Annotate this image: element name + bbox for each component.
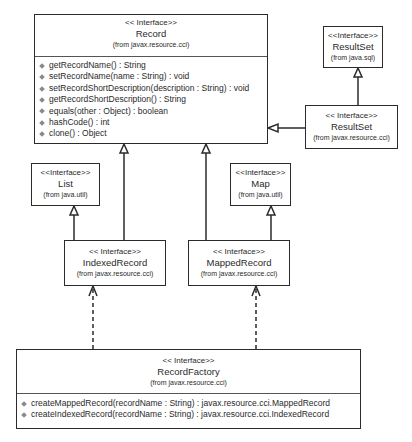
class-list: <<Interface>> List (from java.util) bbox=[31, 163, 100, 206]
class-name: Record bbox=[35, 28, 267, 40]
class-record: << Interface>> Record (from javax.resour… bbox=[34, 14, 268, 144]
stereotype: <<Interface>> bbox=[231, 168, 290, 178]
operation-item: createIndexedRecord(recordName : String)… bbox=[21, 409, 360, 420]
operation-item: hashCode() : int bbox=[39, 117, 267, 128]
stereotype: << Interface>> bbox=[35, 18, 267, 28]
public-operation-icon bbox=[39, 86, 45, 92]
operations-list: createMappedRecord(recordName : String) … bbox=[17, 393, 360, 421]
class-name: Map bbox=[231, 178, 290, 190]
operation-item: getRecordName() : String bbox=[39, 60, 267, 71]
operations-list: getRecordName() : String setRecordName(n… bbox=[35, 56, 267, 140]
public-operation-icon bbox=[39, 63, 45, 69]
generalization-arrowhead-icon bbox=[268, 124, 278, 132]
package-label: (from java.util) bbox=[231, 190, 290, 199]
package-label: (from javax.resource.cci) bbox=[189, 269, 289, 278]
package-label: (from javax.resource.cci) bbox=[306, 133, 397, 142]
class-name: IndexedRecord bbox=[65, 257, 165, 269]
package-label: (from javax.resource.cci) bbox=[35, 40, 267, 49]
generalization-arrowhead-icon bbox=[202, 144, 210, 153]
generalization-arrowhead-icon bbox=[70, 206, 78, 215]
operation-item: getRecordShortDescription() : String bbox=[39, 94, 267, 105]
operation-item: createMappedRecord(recordName : String) … bbox=[21, 398, 360, 409]
package-label: (from java.util) bbox=[32, 190, 99, 199]
class-mappedrecord: << Interface>> MappedRecord (from javax.… bbox=[188, 240, 290, 286]
public-operation-icon bbox=[39, 74, 45, 80]
operation-item: setRecordName(name : String) : void bbox=[39, 71, 267, 82]
class-name: ResultSet bbox=[306, 121, 397, 133]
operation-item: equals(other : Object) : boolean bbox=[39, 106, 267, 117]
stereotype: <<Interface>> bbox=[32, 168, 99, 178]
class-name: ResultSet bbox=[324, 41, 382, 53]
class-name: RecordFactory bbox=[17, 366, 360, 378]
generalization-arrowhead-icon bbox=[120, 144, 128, 153]
package-label: (from javax.resource.cci) bbox=[65, 269, 165, 278]
public-operation-icon bbox=[39, 120, 45, 126]
stereotype: << Interface>> bbox=[17, 356, 360, 366]
operation-item: setRecordShortDescription(description : … bbox=[39, 83, 267, 94]
class-indexedrecord: << Interface>> IndexedRecord (from javax… bbox=[64, 240, 166, 286]
generalization-arrowhead-icon bbox=[267, 206, 275, 215]
stereotype: << Interface>> bbox=[306, 111, 397, 121]
stereotype: << Interface>> bbox=[65, 247, 165, 257]
public-operation-icon bbox=[21, 401, 27, 407]
class-name: List bbox=[32, 178, 99, 190]
public-operation-icon bbox=[39, 131, 45, 137]
operation-item: clone() : Object bbox=[39, 128, 267, 139]
generalization-arrowhead-icon bbox=[354, 68, 362, 77]
class-recordfactory: << Interface>> RecordFactory (from javax… bbox=[16, 349, 361, 429]
stereotype: << Interface>> bbox=[189, 247, 289, 257]
public-operation-icon bbox=[39, 108, 45, 114]
public-operation-icon bbox=[39, 97, 45, 103]
class-map: <<Interface>> Map (from java.util) bbox=[230, 163, 291, 206]
class-resultset-sql: <<Interface>> ResultSet (from java.sql) bbox=[323, 26, 383, 68]
stereotype: <<Interface>> bbox=[324, 31, 382, 41]
package-label: (from javax.resource.cci) bbox=[17, 378, 360, 387]
public-operation-icon bbox=[21, 412, 27, 418]
package-label: (from java.sql) bbox=[324, 53, 382, 62]
class-name: MappedRecord bbox=[189, 257, 289, 269]
class-resultset-cci: << Interface>> ResultSet (from javax.res… bbox=[305, 105, 398, 149]
